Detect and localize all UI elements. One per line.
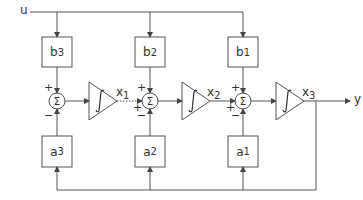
sum-2-plus-top: + [137,82,146,93]
a3-block: a3 [42,136,72,167]
b3-base: b [50,45,58,59]
state-x2-label: x2 [207,86,220,101]
output-label-y: y [354,93,361,105]
a1-block: a1 [228,136,258,167]
sum-2-symbol: Σ [142,93,158,109]
input-label-u: u [20,4,28,16]
b3-sub: 3 [58,47,64,58]
b3-block: b3 [42,37,72,67]
sum-2-minus-bottom: − [137,110,146,121]
a1-base: a [236,145,243,159]
b1-sub: 1 [244,47,250,58]
a3-base: a [50,145,57,159]
b2-sub: 2 [151,47,157,58]
sum-3-symbol: Σ [235,93,251,109]
b1-base: b [236,45,244,59]
b2-base: b [143,45,151,59]
sum-3-plus-top: + [231,82,240,93]
a2-block: a2 [135,136,165,167]
a1-sub: 1 [243,146,249,157]
sum-1-plus-top: + [44,82,53,93]
block-diagram: u y b3 b2 b1 a3 a2 a1 Σ Σ Σ + − + + − + … [0,0,363,200]
state-x1-label: x1 [116,86,129,101]
a2-sub: 2 [150,146,156,157]
sum-1-symbol: Σ [49,93,65,109]
a3-sub: 3 [57,146,63,157]
b2-block: b2 [135,37,165,67]
b1-block: b1 [228,37,258,67]
sum-1-minus-bottom: − [44,110,53,121]
a2-base: a [143,145,150,159]
state-x3-label: x3 [302,86,315,101]
sum-3-minus-bottom: − [231,110,240,121]
